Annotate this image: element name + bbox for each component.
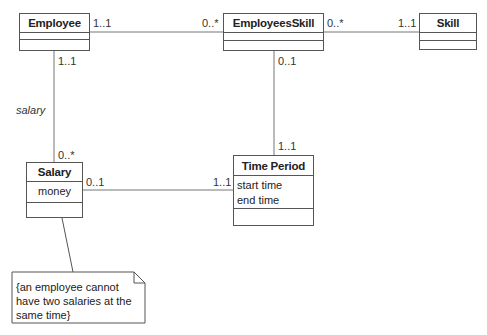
- note-line: have two salaries at the: [16, 294, 132, 308]
- multiplicity-skill-from-es: 1..1: [398, 17, 416, 29]
- attribute-money: money: [38, 185, 71, 197]
- multiplicity-employee-to-salary: 1..1: [58, 55, 76, 67]
- multiplicity-es-from-employee: 0..*: [202, 17, 219, 29]
- multiplicity-employee-to-es: 1..1: [93, 17, 111, 29]
- multiplicity-timeperiod-from-es: 1..1: [278, 140, 296, 152]
- multiplicity-timeperiod-from-salary: 1..1: [213, 176, 231, 188]
- multiplicity-es-to-skill: 0..*: [327, 17, 344, 29]
- class-attributes: [20, 33, 89, 40]
- class-employee[interactable]: Employee: [19, 13, 90, 51]
- class-name: Time Period: [234, 156, 313, 176]
- class-attributes: [224, 33, 323, 41]
- multiplicity-es-to-timeperiod: 0..1: [278, 55, 296, 67]
- class-time-period[interactable]: Time Period start time end time: [233, 155, 314, 226]
- class-name: Salary: [27, 163, 82, 182]
- role-label-salary: salary: [16, 104, 45, 116]
- class-attributes: [420, 33, 476, 41]
- constraint-note: {an employee cannot have two salaries at…: [16, 280, 132, 322]
- class-name: Employee: [20, 14, 89, 33]
- class-skill[interactable]: Skill: [419, 13, 477, 50]
- class-name: EmployeesSkill: [224, 14, 323, 33]
- note-line: same time}: [16, 308, 132, 322]
- class-name: Skill: [420, 14, 476, 33]
- multiplicity-salary-to-timeperiod: 0..1: [86, 176, 104, 188]
- class-attributes: money: [27, 182, 82, 203]
- class-salary[interactable]: Salary money: [26, 162, 83, 218]
- class-attributes: start time end time: [234, 176, 313, 209]
- note-line: {an employee cannot: [16, 280, 132, 294]
- attribute-start-time: start time: [237, 178, 310, 193]
- multiplicity-salary-from-employee: 0..*: [58, 149, 75, 161]
- attribute-end-time: end time: [237, 193, 310, 208]
- note-anchor-line: [62, 218, 73, 272]
- class-employeesskill[interactable]: EmployeesSkill: [223, 13, 324, 51]
